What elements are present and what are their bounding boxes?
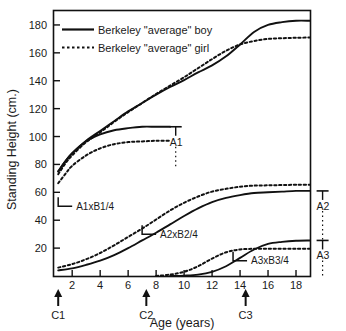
slope-marker-label: A3xB3/4	[251, 255, 289, 266]
x-tick-label: 18	[290, 279, 302, 291]
y-axis-tick-labels: 20406080100120140160180	[29, 19, 47, 254]
x-axis-title: Age (years)	[150, 316, 215, 330]
x-tick-label: 4	[97, 279, 103, 291]
x-tick-label: 8	[153, 279, 159, 291]
y-tick-label: 160	[29, 47, 47, 59]
y-tick-label: 80	[35, 158, 47, 170]
range-marker-label: A2	[317, 200, 330, 212]
y-axis-ticks	[54, 25, 60, 248]
y-tick-label: 140	[29, 75, 47, 87]
range-marker-label: A1	[170, 136, 183, 148]
axis-marker-label: C3	[239, 309, 253, 321]
y-tick-label: 20	[35, 242, 47, 254]
x-tick-label: 14	[234, 279, 246, 291]
x-axis-tick-labels: 24681012141618	[69, 279, 302, 291]
y-axis-title: Standing Height (cm.)	[5, 89, 19, 210]
slope-marker	[233, 252, 247, 261]
y-tick-label: 60	[35, 186, 47, 198]
range-marker-label: A3	[317, 249, 330, 261]
y-tick-label: 40	[35, 214, 47, 226]
slope-marker	[58, 197, 72, 206]
y-tick-label: 100	[29, 131, 47, 143]
series-line	[58, 141, 170, 184]
x-tick-label: 2	[69, 279, 75, 291]
x-tick-label: 12	[206, 279, 218, 291]
axis-marker-label: C1	[51, 309, 65, 321]
y-tick-label: 180	[29, 19, 47, 31]
series-line	[58, 38, 310, 175]
legend-label-girl: Berkeley "average" girl	[98, 42, 209, 54]
x-tick-label: 16	[262, 279, 274, 291]
x-tick-label: 6	[125, 279, 131, 291]
y-tick-label: 120	[29, 103, 47, 115]
legend-label-boy: Berkeley "average" boy	[98, 24, 213, 36]
axis-marker-arrowhead	[142, 289, 150, 297]
axis-marker-arrowhead	[54, 289, 62, 297]
x-tick-label: 10	[178, 279, 190, 291]
slope-marker-label: A2xB2/4	[160, 229, 198, 240]
slope-marker-label: A1xB1/4	[76, 201, 114, 212]
chart-svg: 20406080100120140160180 24681012141618 A…	[0, 0, 346, 331]
chart-legend: Berkeley "average" boy Berkeley "average…	[62, 24, 213, 54]
growth-curve-chart: 20406080100120140160180 24681012141618 A…	[0, 0, 346, 331]
